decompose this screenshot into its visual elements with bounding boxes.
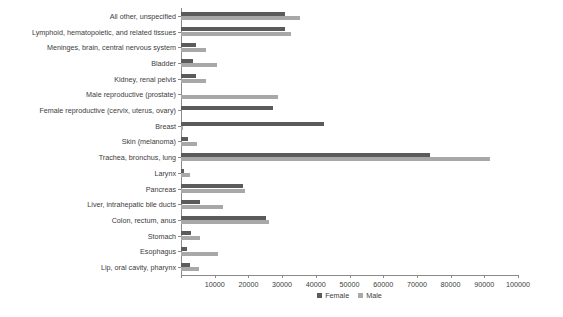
bar-female xyxy=(181,59,193,63)
category-label: Meninges, brain, central nervous system xyxy=(47,43,176,52)
category-label: Liver, intrahepatic bile ducts xyxy=(87,200,176,209)
bar-female xyxy=(181,216,266,220)
y-axis-tick xyxy=(178,110,181,111)
bar-male xyxy=(181,220,269,224)
bar-female xyxy=(181,74,196,78)
bar-male xyxy=(181,173,190,177)
category-row: Esophagus xyxy=(181,244,518,260)
x-axis-tick xyxy=(518,275,519,278)
category-row: Liver, intrahepatic bile ducts xyxy=(181,196,518,212)
category-label: Pancreas xyxy=(146,184,176,193)
bar-male xyxy=(181,252,218,256)
category-label: Larynx xyxy=(154,168,176,177)
bar-male xyxy=(181,189,245,193)
x-axis-tick xyxy=(417,275,418,278)
x-axis: 1000020000300004000050000600007000080000… xyxy=(181,275,518,276)
bar-male xyxy=(181,95,278,99)
bar-male xyxy=(181,48,206,52)
bar-chart: All other, unspecifiedLymphoid, hematopo… xyxy=(0,0,563,317)
x-axis-tick-label: 70000 xyxy=(407,280,427,289)
bar-female xyxy=(181,12,285,16)
bar-male xyxy=(181,63,217,67)
legend-label: Female xyxy=(325,291,349,300)
category-label: Bladder xyxy=(151,58,176,67)
x-axis-tick xyxy=(215,275,216,278)
bar-female xyxy=(181,137,188,141)
bar-male xyxy=(181,267,199,271)
category-row: Male reproductive (prostate) xyxy=(181,87,518,103)
category-row: Lip, oral cavity, pharynx xyxy=(181,259,518,275)
x-axis-tick xyxy=(282,275,283,278)
bar-female xyxy=(181,43,196,47)
bar-female xyxy=(181,169,184,173)
legend-item[interactable]: Male xyxy=(358,291,382,300)
x-axis-tick-label: 50000 xyxy=(340,280,360,289)
bar-female xyxy=(181,231,191,235)
category-row: Stomach xyxy=(181,228,518,244)
bar-male xyxy=(181,16,300,20)
bar-male xyxy=(181,205,223,209)
bar-male xyxy=(181,79,206,83)
x-axis-tick xyxy=(451,275,452,278)
category-row: All other, unspecified xyxy=(181,8,518,24)
plot-area: All other, unspecifiedLymphoid, hematopo… xyxy=(181,8,518,275)
x-axis-tick xyxy=(248,275,249,278)
category-row: Colon, rectum, anus xyxy=(181,212,518,228)
category-label: Stomach xyxy=(148,231,176,240)
x-axis-tick-label: 10000 xyxy=(205,280,225,289)
category-label: Esophagus xyxy=(140,247,176,256)
x-axis-tick-label: 20000 xyxy=(238,280,258,289)
bar-male xyxy=(181,157,490,161)
category-row: Larynx xyxy=(181,165,518,181)
x-axis-tick xyxy=(181,275,182,278)
bar-female xyxy=(181,263,190,267)
x-axis-tick-label: 100000 xyxy=(506,280,530,289)
category-row: Bladder xyxy=(181,55,518,71)
category-row: Pancreas xyxy=(181,181,518,197)
category-label: Kidney, renal pelvis xyxy=(114,74,176,83)
legend-swatch-icon xyxy=(358,293,363,298)
category-label: Male reproductive (prostate) xyxy=(86,90,176,99)
bar-male xyxy=(181,236,200,240)
category-label: Female reproductive (cervix, uterus, ova… xyxy=(39,106,176,115)
category-label: All other, unspecified xyxy=(110,11,176,20)
category-label: Colon, rectum, anus xyxy=(112,216,176,225)
category-label: Lip, oral cavity, pharynx xyxy=(101,263,176,272)
bar-female xyxy=(181,106,273,110)
x-axis-tick-label: 30000 xyxy=(272,280,292,289)
category-label: Lymphoid, hematopoietic, and related tis… xyxy=(32,27,176,36)
category-label: Skin (melanoma) xyxy=(122,137,176,146)
bar-male xyxy=(181,126,183,130)
x-axis-tick-label: 60000 xyxy=(373,280,393,289)
bar-male xyxy=(181,32,291,36)
category-row: Kidney, renal pelvis xyxy=(181,71,518,87)
bar-female xyxy=(181,200,200,204)
bar-female xyxy=(181,122,324,126)
category-row: Skin (melanoma) xyxy=(181,134,518,150)
bar-female xyxy=(181,247,187,251)
bar-male xyxy=(181,142,197,146)
x-axis-tick xyxy=(350,275,351,278)
category-row: Female reproductive (cervix, uterus, ova… xyxy=(181,102,518,118)
x-axis-tick xyxy=(383,275,384,278)
x-axis-tick-label: 80000 xyxy=(441,280,461,289)
x-axis-tick-label: 90000 xyxy=(474,280,494,289)
legend-swatch-icon xyxy=(317,293,322,298)
legend-label: Male xyxy=(366,291,382,300)
bar-female xyxy=(181,27,285,31)
x-axis-tick xyxy=(316,275,317,278)
bar-female xyxy=(181,153,430,157)
x-axis-tick xyxy=(484,275,485,278)
chart-legend: FemaleMale xyxy=(181,291,518,300)
category-row: Breast xyxy=(181,118,518,134)
x-axis-tick-label: 40000 xyxy=(306,280,326,289)
legend-item[interactable]: Female xyxy=(317,291,349,300)
category-row: Lymphoid, hematopoietic, and related tis… xyxy=(181,24,518,40)
category-row: Trachea, bronchus, lung xyxy=(181,149,518,165)
bar-female xyxy=(181,184,243,188)
category-label: Trachea, bronchus, lung xyxy=(99,153,176,162)
category-label: Breast xyxy=(155,121,176,130)
category-row: Meninges, brain, central nervous system xyxy=(181,39,518,55)
